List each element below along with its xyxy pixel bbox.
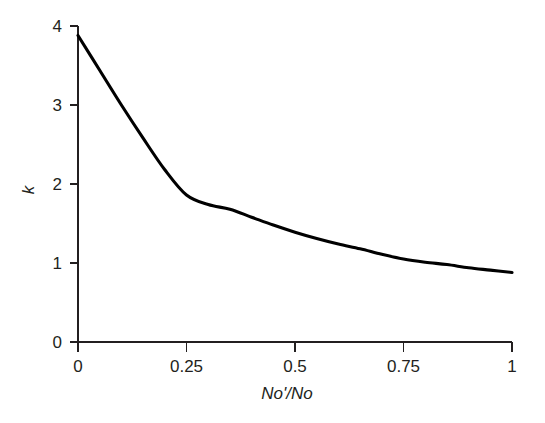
- x-tick-label-075: 0.75: [387, 357, 420, 376]
- plot-canvas: 4 3 2 1 0 0 0.25 0.5 0.75 1 No'/No k: [0, 0, 545, 423]
- chart-figure: 4 3 2 1 0 0 0.25 0.5 0.75 1 No'/No k: [0, 0, 545, 423]
- x-tick-label-025: 0.25: [170, 357, 203, 376]
- y-tick-label-2: 2: [53, 175, 62, 194]
- y-tick-label-3: 3: [53, 96, 62, 115]
- x-axis-title: No'/No: [261, 384, 312, 403]
- x-tick-label-0: 0: [73, 357, 82, 376]
- y-axis-title: k: [19, 184, 38, 194]
- x-tick-label-05: 0.5: [283, 357, 307, 376]
- y-tick-label-1: 1: [53, 254, 62, 273]
- y-tick-label-4: 4: [53, 17, 62, 36]
- data-curve-k: [78, 35, 512, 272]
- y-tick-label-0: 0: [53, 333, 62, 352]
- x-tick-label-1: 1: [507, 357, 516, 376]
